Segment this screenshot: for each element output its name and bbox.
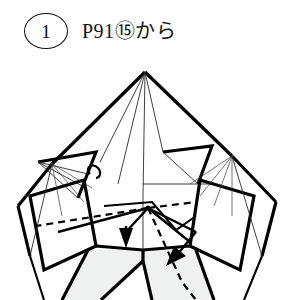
step-number-badge: 1	[24, 13, 68, 49]
fold-arrow-left	[58, 208, 148, 248]
edge-right-lower	[262, 202, 276, 256]
convergence-vertex	[146, 206, 151, 211]
origami-figure	[0, 56, 284, 300]
origami-diagram-svg	[0, 56, 284, 300]
step-header: 1 P91⑮から	[0, 0, 284, 62]
step-caption: P91⑮から	[82, 21, 176, 41]
edge-left-lower	[18, 206, 30, 256]
edge-right-foot	[244, 256, 262, 300]
crease-rw-3	[214, 156, 232, 206]
fold-arrow-left-head	[119, 228, 133, 248]
diagram-page: 1 P91⑮から	[0, 0, 284, 300]
